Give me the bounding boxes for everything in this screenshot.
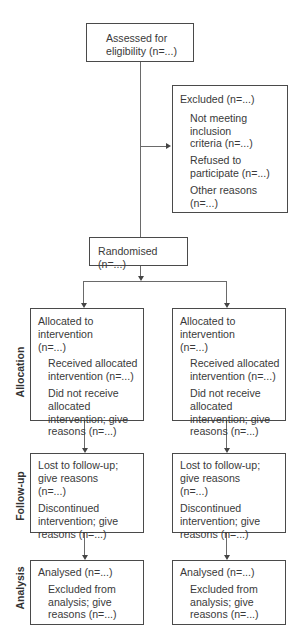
stage-label-allocation: Allocation bbox=[14, 332, 26, 412]
right-lost-followup: Lost to follow-up; give reasons (n=...) bbox=[180, 459, 281, 497]
right-analysed-label: Analysed (n=...) bbox=[180, 566, 281, 579]
left-analysis-box: Analysed (n=...) Excluded from analysis;… bbox=[30, 560, 144, 625]
arrow-to-excluded bbox=[166, 143, 171, 149]
randomised-box: Randomised (n=...) bbox=[89, 237, 188, 266]
left-allocated-label: Allocated to intervention (n=...) bbox=[38, 315, 139, 353]
left-not-received: Did not receive allocated intervention; … bbox=[38, 387, 139, 438]
right-received: Received allocated intervention (n=...) bbox=[180, 357, 281, 383]
connector-right-arm bbox=[226, 281, 227, 305]
excluded-reason-inclusion: Not meeting inclusion criteria (n=...) bbox=[180, 112, 283, 150]
excluded-label: Excluded (n=...) bbox=[180, 93, 283, 106]
left-excluded-analysis: Excluded from analysis; give reasons (n=… bbox=[38, 583, 139, 621]
connector-split-horizontal bbox=[83, 281, 226, 282]
right-followup-box: Lost to follow-up; give reasons (n=...) … bbox=[172, 453, 286, 533]
connector-to-excluded bbox=[141, 146, 167, 147]
left-discontinued: Discontinued intervention; give reasons … bbox=[38, 502, 139, 540]
excluded-box: Excluded (n=...) Not meeting inclusion c… bbox=[172, 85, 288, 213]
assessed-box: Assessed for eligibility (n=...) bbox=[86, 23, 194, 62]
left-received: Received allocated intervention (n=...) bbox=[38, 357, 139, 383]
right-discontinued: Discontinued intervention; give reasons … bbox=[180, 502, 281, 540]
assessed-label: Assessed for eligibility (n=...) bbox=[106, 32, 193, 58]
connector-assessed-randomised bbox=[140, 61, 141, 237]
right-excluded-analysis: Excluded from analysis; give reasons (n=… bbox=[180, 583, 281, 621]
stage-label-follow-up: Follow-up bbox=[14, 456, 26, 536]
left-analysed-label: Analysed (n=...) bbox=[38, 566, 139, 579]
right-analysis-box: Analysed (n=...) Excluded from analysis;… bbox=[172, 560, 286, 625]
randomised-label: Randomised (n=...) bbox=[98, 245, 187, 271]
right-not-received: Did not receive allocated intervention; … bbox=[180, 387, 281, 438]
excluded-reason-other: Other reasons (n=...) bbox=[180, 184, 283, 210]
right-allocation-box: Allocated to intervention (n=...) Receiv… bbox=[172, 308, 286, 421]
left-followup-box: Lost to follow-up; give reasons (n=...) … bbox=[30, 453, 144, 533]
connector-left-arm bbox=[83, 281, 84, 305]
right-allocated-label: Allocated to intervention (n=...) bbox=[180, 315, 281, 353]
left-allocation-box: Allocated to intervention (n=...) Receiv… bbox=[30, 308, 144, 421]
stage-label-analysis: Analysis bbox=[14, 548, 26, 628]
left-lost-followup: Lost to follow-up; give reasons (n=...) bbox=[38, 459, 139, 497]
excluded-reason-refused: Refused to participate (n=...) bbox=[180, 154, 283, 180]
